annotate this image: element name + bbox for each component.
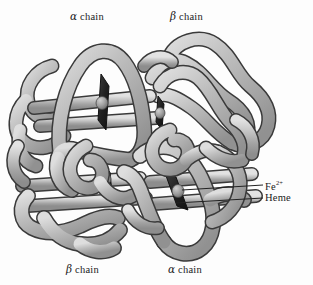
chain-word: chain <box>72 264 99 275</box>
iron-symbol: Fe <box>265 181 276 192</box>
iron-charge-superscript: 2+ <box>276 179 283 186</box>
label-iron-callout: Fe2+ <box>265 179 283 192</box>
hemoglobin-structure-illustration <box>0 0 313 285</box>
label-alpha-chain-top: α chain <box>70 10 104 22</box>
chain-word: chain <box>77 11 104 22</box>
hemoglobin-figure: α chain β chain β chain α chain Fe2+ Hem… <box>0 0 313 285</box>
iron-atom-sphere <box>155 108 165 119</box>
label-heme-callout: Heme <box>265 192 291 203</box>
label-beta-chain-top: β chain <box>170 10 203 22</box>
label-beta-chain-bottom: β chain <box>66 263 99 275</box>
chain-word: chain <box>176 11 203 22</box>
label-alpha-chain-bottom: α chain <box>168 263 202 275</box>
chain-word: chain <box>175 264 202 275</box>
iron-atom-sphere <box>96 97 108 110</box>
iron-atom-sphere-labeled <box>172 185 184 198</box>
